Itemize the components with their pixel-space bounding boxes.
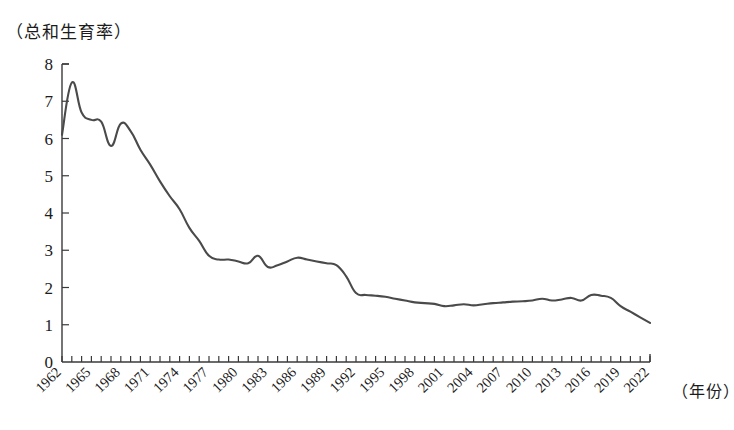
x-tick-label: 2004: [444, 363, 476, 395]
y-tick-label: 6: [45, 130, 54, 149]
x-axis: 1962196519681971197419771980198319861989…: [32, 354, 652, 396]
x-tick-label: 1998: [385, 364, 417, 396]
y-tick-label: 3: [45, 241, 54, 260]
x-tick-label: 2022: [620, 364, 652, 396]
fertility-rate-chart: （总和生育率） （年份） 012345678 19621965196819711…: [0, 0, 734, 430]
x-tick-label: 1965: [62, 364, 94, 396]
x-tick-label: 2007: [473, 364, 505, 396]
x-tick-label: 2019: [591, 364, 623, 396]
x-tick-label: 2001: [415, 364, 447, 396]
y-tick-label: 8: [45, 55, 54, 74]
y-tick-label: 4: [45, 204, 54, 223]
x-tick-label: 2016: [562, 364, 594, 396]
x-tick-label: 1995: [356, 364, 388, 396]
y-tick-label: 2: [45, 279, 54, 298]
y-tick-label: 5: [45, 167, 54, 186]
x-tick-label: 1986: [268, 364, 300, 396]
x-tick-label: 1989: [297, 364, 329, 396]
y-axis: 012345678: [45, 55, 70, 372]
x-tick-label: 1983: [238, 364, 270, 396]
x-tick-label: 1977: [179, 364, 211, 396]
x-tick-label: 1974: [150, 363, 182, 395]
plot-area: 012345678 196219651968197119741977198019…: [0, 0, 734, 430]
fertility-rate-line: [62, 82, 650, 323]
y-tick-label: 1: [45, 316, 54, 335]
x-tick-label: 1971: [121, 364, 153, 396]
x-tick-label: 2010: [503, 364, 535, 396]
x-tick-label: 1962: [32, 364, 64, 396]
y-tick-label: 7: [45, 92, 54, 111]
x-tick-label: 2013: [532, 364, 564, 396]
x-tick-label: 1968: [91, 364, 123, 396]
x-tick-label: 1980: [209, 364, 241, 396]
x-tick-label: 1992: [326, 364, 358, 396]
